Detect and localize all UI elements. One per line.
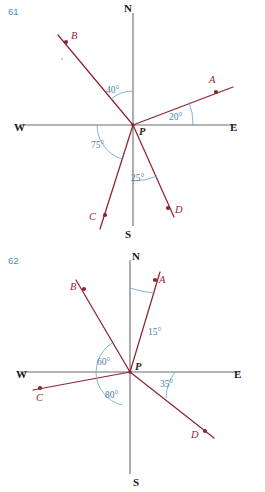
point-dot-b-61 (64, 40, 68, 44)
point-dot-b-62 (82, 287, 86, 291)
compass-north-62: N (132, 250, 140, 262)
figure-62-svg: N S E W A B C D P 15° 60° 35° 80° 62 (0, 246, 265, 492)
center-dot-62 (128, 370, 132, 374)
point-label-a-61: A (208, 74, 216, 85)
angle-arc-15-62 (130, 288, 155, 293)
angle-label-20-61: 20° (169, 112, 183, 122)
angle-label-15-62: 15° (148, 327, 162, 337)
point-label-c-61: C (89, 211, 97, 222)
problem-number-62: 62 (8, 255, 19, 266)
angle-label-25-61: 25° (131, 173, 145, 183)
point-dot-a-61 (214, 90, 218, 94)
compass-east-62: E (234, 368, 241, 380)
point-label-b-62: B (70, 281, 77, 292)
point-dot-d-61 (166, 206, 170, 210)
figure-62-container: N S E W A B C D P 15° 60° 35° 80° 62 (0, 246, 265, 492)
point-label-d-61: D (174, 204, 183, 215)
center-label-p-61: P (139, 126, 146, 137)
point-dot-a-62 (153, 278, 157, 282)
problem-number-61: 61 (8, 6, 19, 17)
figure-61-svg: N S E W B A C D P 40° 20° 75° 25° 61 (0, 0, 265, 246)
angle-label-40-61: 40° (106, 85, 120, 95)
center-label-p-62: P (135, 361, 142, 372)
ray-pa-62 (130, 272, 160, 372)
compass-north-61: N (124, 2, 132, 14)
point-label-b-61: B (71, 30, 78, 41)
center-dot-61 (131, 123, 135, 127)
compass-west-61: W (14, 121, 25, 133)
angle-label-60-62: 60° (97, 357, 111, 367)
ray-pa-61 (133, 87, 233, 125)
point-dot-c-62 (38, 386, 42, 390)
ray-pd-61 (133, 125, 174, 217)
angle-label-80-62: 80° (105, 390, 119, 400)
compass-west-62: W (16, 368, 27, 380)
compass-south-61: S (125, 228, 131, 240)
ray-pc-62 (33, 372, 130, 390)
point-dot-d-62 (203, 429, 207, 433)
point-label-a-62: A (158, 274, 166, 285)
compass-east-61: E (230, 121, 237, 133)
compass-south-62: S (133, 476, 139, 488)
point-label-d-62: D (190, 429, 199, 440)
angle-arc-20-61 (189, 102, 193, 125)
ray-pb-61 (58, 35, 133, 125)
point-dot-c-61 (103, 213, 107, 217)
point-label-c-62: C (36, 392, 44, 403)
angle-label-35-62: 35° (160, 379, 174, 389)
speck-mark-61 (61, 58, 63, 60)
figure-61-container: N S E W B A C D P 40° 20° 75° 25° 61 (0, 0, 265, 246)
angle-label-75-61: 75° (91, 140, 105, 150)
